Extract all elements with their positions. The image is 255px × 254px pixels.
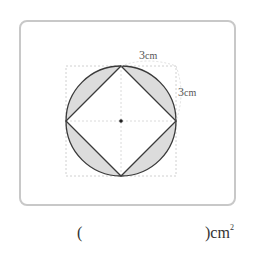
right-length-label: 3cm — [178, 85, 196, 100]
center-point — [119, 119, 123, 123]
answer-unit: )cm2 — [205, 224, 234, 242]
top-length-label: 3cm — [139, 48, 157, 63]
circle-square-figure — [0, 0, 255, 254]
answer-open-paren: ( — [77, 224, 82, 242]
